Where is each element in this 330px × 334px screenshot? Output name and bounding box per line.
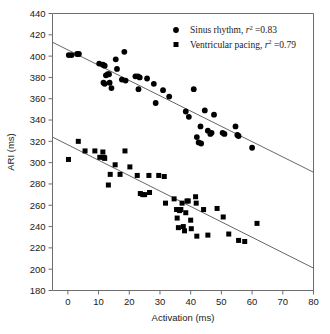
y-tick-label: 200 bbox=[30, 264, 46, 275]
data-point-circle bbox=[76, 51, 82, 57]
y-tick-label: 280 bbox=[30, 178, 46, 189]
data-point-square bbox=[194, 201, 199, 206]
data-point-square bbox=[100, 150, 105, 155]
data-point-circle bbox=[211, 112, 217, 118]
data-point-circle bbox=[109, 85, 115, 91]
data-point-square bbox=[180, 201, 185, 206]
data-point-circle bbox=[191, 86, 197, 92]
data-point-circle bbox=[106, 71, 112, 77]
data-point-square bbox=[162, 174, 167, 179]
y-axis-title: ARI (ms) bbox=[5, 133, 16, 170]
legend-label: Sinus rhythm, r2 =0.83 bbox=[190, 24, 277, 35]
data-point-square bbox=[146, 173, 151, 178]
y-tick-label: 380 bbox=[30, 72, 46, 83]
data-point-circle bbox=[107, 80, 113, 86]
data-point-square bbox=[201, 207, 206, 212]
data-point-circle bbox=[183, 109, 189, 115]
data-point-square bbox=[182, 228, 187, 233]
data-point-circle bbox=[222, 131, 228, 137]
x-tick-label: 70 bbox=[278, 296, 289, 307]
data-point-square bbox=[147, 190, 152, 195]
data-point-square bbox=[205, 233, 210, 238]
data-point-circle bbox=[114, 66, 120, 72]
data-points bbox=[66, 49, 260, 244]
data-point-square bbox=[83, 148, 88, 153]
legend: Sinus rhythm, r2 =0.83Ventricular pacing… bbox=[173, 24, 296, 50]
data-point-square bbox=[176, 225, 181, 230]
data-point-square bbox=[181, 224, 186, 229]
data-point-circle bbox=[194, 134, 200, 140]
data-point-square bbox=[97, 155, 102, 160]
data-point-square bbox=[226, 232, 231, 237]
x-tick-label: 80 bbox=[308, 296, 319, 307]
regression-lines bbox=[53, 42, 314, 268]
data-point-square bbox=[142, 192, 147, 197]
data-point-square bbox=[175, 216, 180, 221]
data-point-circle bbox=[186, 114, 192, 120]
data-point-circle bbox=[249, 145, 255, 151]
data-point-square bbox=[186, 199, 191, 204]
data-point-square bbox=[108, 172, 113, 177]
data-point-square bbox=[215, 206, 220, 211]
data-point-square bbox=[189, 226, 194, 231]
legend-label: Ventricular pacing, r2 =0.79 bbox=[190, 38, 296, 49]
data-point-square bbox=[156, 173, 161, 178]
data-point-square bbox=[106, 183, 111, 188]
data-point-square bbox=[221, 214, 226, 219]
data-point-circle bbox=[113, 56, 119, 62]
data-point-circle bbox=[136, 86, 142, 92]
y-tick-label: 320 bbox=[30, 136, 46, 147]
y-tick-label: 420 bbox=[30, 29, 46, 40]
data-point-square bbox=[194, 234, 199, 239]
data-point-circle bbox=[137, 75, 143, 81]
data-point-circle bbox=[209, 130, 215, 136]
x-tick-label: 20 bbox=[124, 296, 135, 307]
data-point-circle bbox=[123, 78, 129, 84]
y-tick-label: 240 bbox=[30, 221, 46, 232]
data-point-square bbox=[127, 164, 132, 169]
figure-container: 1802002202402602803003203403603804004204… bbox=[0, 0, 330, 334]
data-point-square bbox=[163, 201, 168, 206]
data-point-circle bbox=[202, 108, 208, 114]
data-point-square bbox=[255, 221, 260, 226]
data-point-circle bbox=[233, 124, 239, 130]
data-point-square bbox=[236, 238, 241, 243]
y-tick-label: 300 bbox=[30, 157, 46, 168]
data-point-circle bbox=[144, 76, 150, 82]
data-point-square bbox=[188, 218, 193, 223]
y-tick-label: 440 bbox=[30, 8, 46, 19]
data-point-circle bbox=[236, 133, 242, 139]
data-point-circle bbox=[102, 63, 108, 69]
y-tick-label: 400 bbox=[30, 51, 46, 62]
x-tick-label: 40 bbox=[185, 296, 196, 307]
x-tick-label: 0 bbox=[65, 296, 70, 307]
data-point-square bbox=[76, 139, 81, 144]
data-point-circle bbox=[151, 81, 157, 87]
data-point-circle bbox=[102, 81, 108, 87]
data-point-circle bbox=[160, 87, 166, 93]
x-axis-title: Activation (ms) bbox=[152, 312, 215, 323]
data-point-square bbox=[122, 148, 127, 153]
data-point-circle bbox=[198, 124, 204, 130]
legend-marker-circle bbox=[173, 27, 179, 33]
data-point-square bbox=[102, 156, 107, 161]
y-tick-label: 360 bbox=[30, 93, 46, 104]
data-point-square bbox=[172, 196, 177, 201]
data-point-square bbox=[118, 172, 123, 177]
x-tick-label: 50 bbox=[216, 296, 227, 307]
data-point-circle bbox=[69, 52, 75, 58]
data-point-square bbox=[178, 207, 183, 212]
data-point-square bbox=[135, 173, 140, 178]
axis-ticks bbox=[49, 14, 314, 295]
data-point-square bbox=[66, 157, 71, 162]
x-tick-label: 10 bbox=[93, 296, 104, 307]
data-point-circle bbox=[166, 94, 172, 100]
data-point-circle bbox=[198, 141, 204, 147]
y-tick-label: 220 bbox=[30, 242, 46, 253]
y-tick-label: 260 bbox=[30, 200, 46, 211]
data-point-circle bbox=[121, 49, 127, 55]
data-point-circle bbox=[153, 100, 159, 106]
data-point-square bbox=[193, 194, 198, 199]
x-tick-label: 30 bbox=[155, 296, 166, 307]
data-point-square bbox=[183, 210, 188, 215]
